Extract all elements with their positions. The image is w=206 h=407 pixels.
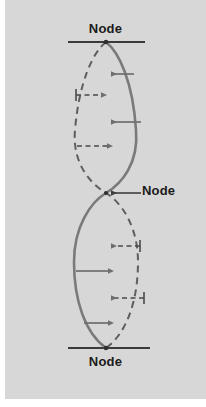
figure-panel: Node Node Node — [5, 0, 206, 399]
top-node-dot — [104, 40, 109, 45]
bottom-node-dot — [104, 346, 109, 351]
standing-wave-diagram — [5, 0, 206, 399]
node-label-top: Node — [5, 22, 206, 35]
node-label-middle: Node — [142, 184, 175, 197]
middle-node-dot — [104, 191, 108, 195]
figure-root: Node Node Node — [0, 0, 206, 407]
node-label-bottom: Node — [5, 355, 206, 368]
solid-wave-curve — [74, 42, 136, 348]
